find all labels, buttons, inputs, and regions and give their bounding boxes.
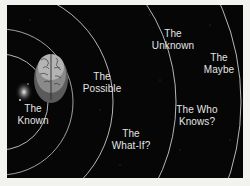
brain-icon <box>34 54 68 103</box>
diagram-panel: The Known The Possible The Unknown The M… <box>7 5 243 178</box>
ring-possible <box>7 29 73 175</box>
label-the-who-knows: The Who Knows? <box>176 104 217 128</box>
galaxy-icon <box>15 81 33 103</box>
label-the-unknown: The Unknown <box>152 28 194 52</box>
label-the-what-if: The What-If? <box>112 128 151 152</box>
rings-svg <box>7 5 243 178</box>
label-the-possible: The Possible <box>83 71 122 95</box>
label-the-maybe: The Maybe <box>204 52 235 76</box>
label-the-known: The Known <box>17 103 48 127</box>
